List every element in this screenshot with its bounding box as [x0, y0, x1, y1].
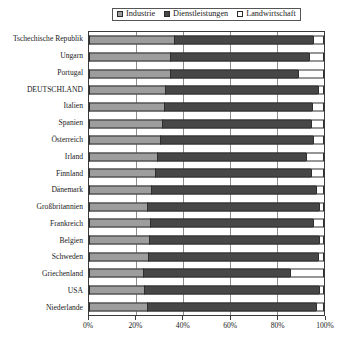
- bar-segment-industrie: [89, 152, 157, 161]
- bar-segment-industrie: [89, 69, 170, 78]
- x-tick-label: 60%: [223, 321, 237, 330]
- bar-segment-landwirtschaft: [306, 152, 324, 161]
- stacked-bar: [89, 169, 324, 178]
- landwirtschaft-swatch-icon: [237, 11, 243, 17]
- stacked-bar: [89, 136, 324, 145]
- stacked-bar: [89, 236, 324, 245]
- x-tick-label: 20%: [128, 321, 142, 330]
- bar-row: [89, 132, 324, 149]
- category-label: Großbritannien: [0, 199, 86, 216]
- bar-segment-landwirtschaft: [311, 169, 324, 178]
- bar-segment-industrie: [89, 86, 165, 95]
- bar-row: [89, 49, 324, 66]
- bar-segment-landwirtschaft: [319, 202, 324, 211]
- bar-segment-dienstleistungen: [170, 52, 309, 61]
- bar-row: [89, 232, 324, 249]
- bar-segment-landwirtschaft: [319, 285, 324, 294]
- category-label: Belgien: [0, 232, 86, 249]
- industrie-swatch-icon: [117, 11, 123, 17]
- stacked-bar: [89, 202, 324, 211]
- category-label: USA: [0, 282, 86, 299]
- bar-segment-dienstleistungen: [150, 219, 313, 228]
- stacked-bar-chart: Industrie Dienstleistungen Landwirtschaf…: [0, 0, 348, 350]
- stacked-bar: [89, 69, 324, 78]
- bar-segment-industrie: [89, 236, 149, 245]
- bar-segment-industrie: [89, 302, 147, 311]
- x-tick: [277, 316, 278, 320]
- chart-legend: Industrie Dienstleistungen Landwirtschaf…: [112, 8, 301, 21]
- x-tick: [325, 316, 326, 320]
- bar-segment-landwirtschaft: [298, 69, 324, 78]
- bar-segment-industrie: [89, 252, 148, 261]
- plot-area: [88, 31, 325, 316]
- stacked-bar: [89, 119, 324, 128]
- x-tick: [230, 316, 231, 320]
- stacked-bar: [89, 269, 324, 278]
- legend-label-landwirtschaft: Landwirtschaft: [246, 10, 296, 18]
- bar-segment-landwirtschaft: [309, 52, 324, 61]
- bar-row: [89, 65, 324, 82]
- bar-segment-dienstleistungen: [170, 69, 298, 78]
- category-label: Dänemark: [0, 182, 86, 199]
- x-tick: [182, 316, 183, 320]
- bar-segment-landwirtschaft: [313, 36, 324, 45]
- bar-row: [89, 82, 324, 99]
- bar-segment-landwirtschaft: [290, 269, 324, 278]
- bar-segment-industrie: [89, 186, 151, 195]
- bar-segment-industrie: [89, 219, 150, 228]
- legend-item-dienstleistungen: Dienstleistungen: [164, 10, 228, 18]
- stacked-bar: [89, 102, 324, 111]
- category-axis-labels: Tschechische RepublikUngarnPortugalDEUTS…: [0, 31, 86, 316]
- bar-segment-dienstleistungen: [155, 169, 311, 178]
- bar-row: [89, 298, 324, 315]
- bar-row: [89, 115, 324, 132]
- x-tick-label: 40%: [176, 321, 190, 330]
- stacked-bar: [89, 86, 324, 95]
- bar-segment-landwirtschaft: [318, 86, 324, 95]
- bar-segment-dienstleistungen: [165, 86, 317, 95]
- stacked-bar: [89, 36, 324, 45]
- bar-row: [89, 99, 324, 116]
- category-label: DEUTSCHLAND: [0, 81, 86, 98]
- bar-segment-landwirtschaft: [319, 236, 324, 245]
- category-label: Italien: [0, 98, 86, 115]
- bar-rows: [89, 32, 324, 315]
- legend-label-industrie: Industrie: [126, 10, 155, 18]
- category-label: Ungarn: [0, 48, 86, 65]
- bar-segment-landwirtschaft: [318, 252, 324, 261]
- bar-segment-landwirtschaft: [316, 302, 324, 311]
- legend-item-industrie: Industrie: [117, 10, 155, 18]
- bar-segment-industrie: [89, 285, 144, 294]
- stacked-bar: [89, 219, 324, 228]
- bar-segment-dienstleistungen: [149, 236, 319, 245]
- bar-segment-landwirtschaft: [313, 219, 324, 228]
- bar-segment-landwirtschaft: [313, 136, 324, 145]
- stacked-bar: [89, 52, 324, 61]
- bar-segment-industrie: [89, 202, 147, 211]
- stacked-bar: [89, 285, 324, 294]
- x-tick-label: 80%: [271, 321, 285, 330]
- dienstleistungen-swatch-icon: [164, 11, 170, 17]
- legend-item-landwirtschaft: Landwirtschaft: [237, 10, 296, 18]
- bar-row: [89, 198, 324, 215]
- bar-segment-industrie: [89, 169, 155, 178]
- bar-segment-dienstleistungen: [160, 136, 314, 145]
- bar-segment-landwirtschaft: [312, 102, 324, 111]
- category-label: Irland: [0, 148, 86, 165]
- bar-segment-landwirtschaft: [316, 186, 324, 195]
- bar-segment-industrie: [89, 136, 160, 145]
- x-tick: [88, 316, 89, 320]
- bar-segment-dienstleistungen: [143, 269, 290, 278]
- bar-segment-dienstleistungen: [174, 36, 314, 45]
- bar-row: [89, 282, 324, 299]
- x-tick: [135, 316, 136, 320]
- bar-segment-industrie: [89, 52, 170, 61]
- bar-segment-dienstleistungen: [157, 152, 306, 161]
- x-tick-label: 0%: [83, 321, 93, 330]
- category-label: Portugal: [0, 65, 86, 82]
- bar-row: [89, 32, 324, 49]
- legend-label-dienstleistungen: Dienstleistungen: [173, 10, 228, 18]
- x-axis-labels: 0%20%40%60%80%100%: [88, 321, 325, 333]
- bar-row: [89, 165, 324, 182]
- bar-segment-dienstleistungen: [162, 119, 311, 128]
